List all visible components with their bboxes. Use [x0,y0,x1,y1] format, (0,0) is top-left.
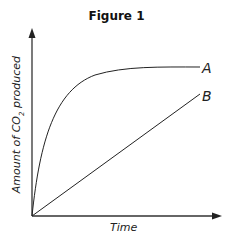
series-a-line [32,67,200,216]
series-b-line [32,94,200,216]
y-axis-arrow-icon [29,28,36,38]
y-label-sub: 2 [18,112,26,116]
y-label-post: produced [10,56,23,111]
x-axis-label: Time [110,221,137,234]
y-label-pre: Amount of CO [10,116,23,193]
series-a-label: A [202,60,212,76]
y-axis-label: Amount of CO2 produced [10,55,25,195]
series-b-label: B [202,88,212,104]
x-axis-arrow-icon [212,213,222,220]
plot-area [0,0,233,245]
